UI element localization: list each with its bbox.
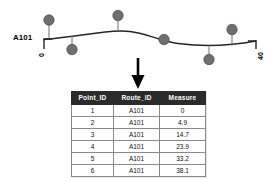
cell-measure: 38.1 — [160, 165, 206, 177]
table-row[interactable]: 2 A101 4.9 — [72, 117, 206, 129]
cell-route-id: A101 — [114, 141, 160, 153]
route-point-marker-3[interactable] — [113, 10, 123, 20]
table-body: 1 A101 0 2 A101 4.9 3 A101 14.7 4 A101 — [72, 105, 206, 177]
route-point-marker-4[interactable] — [159, 34, 169, 44]
cell-point-id: 5 — [72, 153, 114, 165]
cell-measure: 33.2 — [160, 153, 206, 165]
cell-route-id: A101 — [114, 129, 160, 141]
attribute-table-container: Point_ID Route_ID Measure 1 A101 0 2 A10… — [71, 91, 205, 177]
cell-measure: 4.9 — [160, 117, 206, 129]
cell-measure: 0 — [160, 105, 206, 117]
attribute-table: Point_ID Route_ID Measure 1 A101 0 2 A10… — [71, 91, 206, 177]
table-row[interactable]: 3 A101 14.7 — [72, 129, 206, 141]
route-point-marker-6[interactable] — [227, 24, 237, 34]
down-arrow-icon — [0, 58, 276, 92]
cell-point-id: 6 — [72, 165, 114, 177]
cell-route-id: A101 — [114, 117, 160, 129]
table-row[interactable]: 6 A101 38.1 — [72, 165, 206, 177]
cell-point-id: 3 — [72, 129, 114, 141]
cell-point-id: 4 — [72, 141, 114, 153]
column-header-route-id[interactable]: Route_ID — [114, 92, 160, 105]
route-id-label: A101 — [13, 33, 32, 43]
route-point-marker-2[interactable] — [67, 44, 77, 54]
cell-measure: 23.9 — [160, 141, 206, 153]
table-row[interactable]: 5 A101 33.2 — [72, 153, 206, 165]
cell-route-id: A101 — [114, 153, 160, 165]
cell-measure: 14.7 — [160, 129, 206, 141]
table-row[interactable]: 4 A101 23.9 — [72, 141, 206, 153]
route-start-tick — [44, 39, 52, 49]
arrow-head — [132, 75, 145, 89]
route-start-measure-label: 0 — [38, 53, 46, 57]
cell-route-id: A101 — [114, 105, 160, 117]
cell-point-id: 1 — [72, 105, 114, 117]
table-row[interactable]: 1 A101 0 — [72, 105, 206, 117]
flow-arrow — [0, 58, 276, 92]
cell-point-id: 2 — [72, 117, 114, 129]
route-centerline — [44, 31, 256, 45]
route-point-marker-1[interactable] — [44, 15, 54, 25]
column-header-point-id[interactable]: Point_ID — [72, 92, 114, 105]
column-header-measure[interactable]: Measure — [160, 92, 206, 105]
cell-route-id: A101 — [114, 165, 160, 177]
table-header-row: Point_ID Route_ID Measure — [72, 92, 206, 105]
route-measure-figure: A101 0 40 Point_ID Route_ID Measure — [0, 0, 276, 181]
